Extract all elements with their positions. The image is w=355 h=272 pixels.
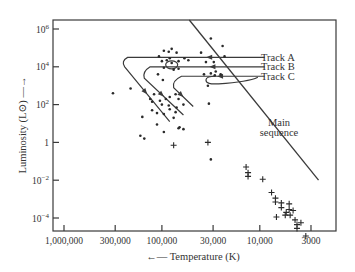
star-dot	[159, 100, 162, 103]
star-dot	[187, 59, 190, 62]
star-dot	[182, 128, 185, 131]
star-dot	[177, 67, 180, 70]
star-dot	[223, 55, 226, 58]
white-dwarf-cross	[272, 199, 278, 205]
star-dot	[149, 98, 152, 101]
star-dot	[165, 59, 168, 62]
x-tick-label: 300,000	[100, 236, 131, 246]
y-tick-label: 106	[36, 23, 50, 35]
star-dot	[175, 51, 178, 54]
star-dot	[168, 108, 171, 111]
star-dot	[210, 72, 213, 75]
white-dwarf-cross	[286, 201, 292, 207]
y-tick-label: 1	[44, 138, 49, 148]
star-dot	[205, 61, 208, 64]
y-tick-label: 102	[36, 98, 50, 110]
star-dot	[139, 134, 142, 137]
main-sequence-label: Main	[268, 117, 291, 128]
track-c-loop	[206, 76, 258, 84]
star-dot	[174, 111, 177, 114]
star-dot	[214, 70, 217, 73]
x-tick-label: 1,000,000	[45, 236, 83, 246]
arrow-icon	[209, 64, 215, 69]
star-dot	[162, 79, 165, 82]
star-dot	[157, 73, 160, 76]
annotations: Track ATrack BTrack CMainsequence	[260, 52, 299, 139]
star-dot	[163, 113, 166, 116]
star-dot	[212, 61, 215, 64]
star-dot	[168, 96, 171, 99]
y-tick-label: 10−2	[32, 174, 49, 186]
star-dot	[175, 106, 178, 109]
star-dot	[177, 60, 180, 63]
white-dwarf-cross	[273, 214, 279, 220]
white-dwarf-cross	[245, 173, 251, 179]
star-dot	[156, 123, 159, 126]
star-dot	[141, 116, 144, 119]
star-dot	[182, 103, 185, 106]
star-dot	[177, 98, 180, 101]
star-dot	[210, 37, 213, 40]
white-dwarf-cross	[171, 142, 177, 148]
star-dot	[177, 127, 180, 130]
star-dot	[153, 93, 156, 96]
white-dwarf-cross	[283, 209, 289, 215]
evolutionary-tracks	[123, 20, 318, 180]
white-dwarf-cross	[260, 176, 266, 182]
star-dot	[158, 55, 161, 58]
star-dot	[161, 103, 164, 106]
track-c-curve	[173, 76, 264, 106]
star-dot	[200, 51, 203, 54]
white-dwarf-cross	[278, 205, 284, 211]
white-dwarf-cross	[290, 207, 296, 213]
x-tick-label: 30,000	[200, 236, 226, 246]
star-dot	[151, 100, 154, 103]
y-tick-label: 104	[36, 60, 50, 72]
star-dot	[170, 48, 173, 51]
star-dot	[112, 92, 115, 95]
star-dot	[207, 84, 210, 87]
star-dot	[172, 117, 175, 120]
star-dot	[161, 60, 164, 63]
y-axis-title: Luminosity (L⊙) —→	[17, 77, 29, 174]
white-dwarf-cross	[269, 189, 275, 195]
x-axis-title: ←— Temperature (K)	[146, 251, 240, 263]
star-dot	[167, 104, 170, 107]
star-dot	[221, 45, 224, 48]
star-dot	[170, 62, 173, 65]
star-dot	[203, 73, 206, 76]
star-dot	[174, 93, 177, 96]
x-tick-label: 3000	[301, 236, 320, 246]
star-dot	[213, 74, 216, 77]
arrow-icon	[206, 55, 212, 60]
star-dot	[210, 158, 213, 161]
main-sequence-label: sequence	[260, 127, 299, 138]
label-track-c: Track C	[261, 71, 295, 82]
star-dot	[167, 50, 170, 53]
x-tick-label: 100,000	[146, 236, 177, 246]
star-dot	[208, 102, 211, 105]
white-dwarf-cross	[282, 212, 288, 218]
hr-diagram: 106104102110−210−41,000,000300,000100,00…	[0, 0, 355, 272]
star-dot	[151, 109, 154, 112]
main-sequence-line	[189, 20, 318, 180]
star-dot	[143, 137, 146, 140]
x-tick-label: 10,000	[247, 236, 273, 246]
star-dot	[163, 131, 166, 134]
star-dot	[165, 98, 168, 101]
star-dot	[163, 49, 166, 52]
star-dot	[219, 73, 222, 76]
white-dwarf-cross	[205, 139, 211, 145]
white-dwarf-cross	[286, 206, 292, 212]
star-dot	[168, 57, 171, 60]
y-tick-label: 10−4	[32, 212, 49, 224]
star-dot	[172, 68, 175, 71]
white-dwarf-cross	[243, 164, 249, 170]
star-dot	[156, 112, 159, 115]
star-dot	[183, 57, 186, 60]
star-dot	[163, 66, 166, 69]
star-dot	[129, 87, 132, 90]
